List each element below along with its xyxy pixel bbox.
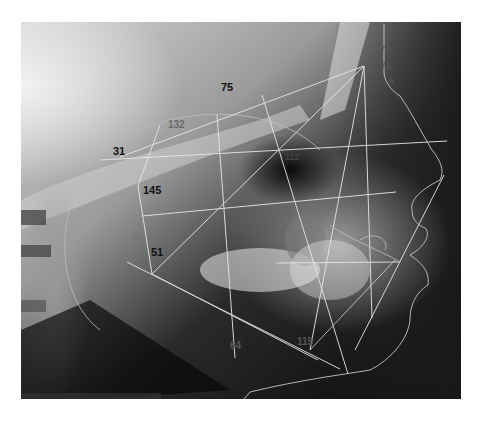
angle-label-40: 40 <box>131 232 143 243</box>
angle-label-center: 112 <box>285 152 300 162</box>
angle-label-64: 64 <box>230 340 242 351</box>
angle-label-77: 77 <box>380 44 390 54</box>
angle-label-6: 6 <box>389 76 394 86</box>
angle-label-51: 51 <box>151 246 163 258</box>
angle-label-31: 31 <box>113 145 125 157</box>
angle-label-71: 71 <box>381 60 391 70</box>
cephalometric-xray: 75 132 31 145 40 51 64 115 112 77 71 6 <box>0 0 478 423</box>
angle-label-145: 145 <box>143 184 161 196</box>
angle-label-115: 115 <box>297 336 314 347</box>
angle-label-132: 132 <box>168 119 185 130</box>
angle-label-75: 75 <box>221 81 233 93</box>
